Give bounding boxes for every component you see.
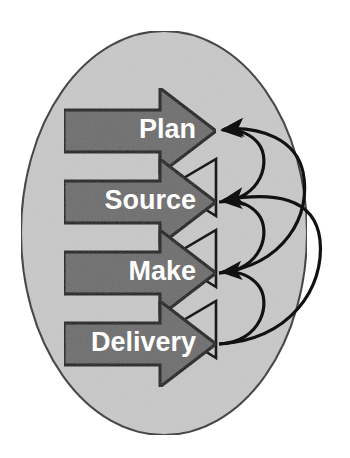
- process-label-source: Source: [104, 185, 196, 215]
- process-label-make: Make: [128, 256, 196, 286]
- scor-process-diagram: Plan Source Make Delivery: [0, 0, 350, 458]
- diagram-root: Plan Source Make Delivery: [0, 0, 350, 458]
- process-label-plan: Plan: [139, 114, 196, 144]
- process-label-delivery: Delivery: [91, 327, 196, 357]
